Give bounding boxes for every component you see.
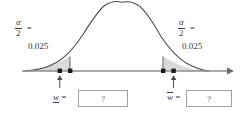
upper-bound-symbol: w xyxy=(167,92,173,102)
right-equals-sign: = xyxy=(190,23,195,33)
lower-bound-pointer-arrowhead xyxy=(57,75,63,80)
upper-bound-answer-text: ? xyxy=(207,94,211,104)
upper-bound-pointer-arrowhead xyxy=(171,75,177,80)
right-tail-shaded-region xyxy=(163,56,209,71)
left-equals-sign: = xyxy=(27,23,32,33)
right-alpha-numerator: α xyxy=(178,18,185,27)
left-tail-shaded-region xyxy=(25,56,70,71)
lower-bound-answer-box[interactable]: ? xyxy=(78,90,128,107)
statistics-figure: α 2 = 0.025 α 2 = 0.025 w = ? w = ? xyxy=(0,0,244,114)
right-tail-area-value: 0.025 xyxy=(182,41,202,51)
upper-boundary-dot xyxy=(161,69,165,73)
left-tail-area-value: 0.025 xyxy=(28,41,48,51)
lower-bound-label: w = xyxy=(53,92,66,103)
upper-bound-label: w = xyxy=(167,92,180,102)
right-alpha-fraction: α 2 xyxy=(178,18,185,39)
upper-bound-answer-box[interactable]: ? xyxy=(186,90,232,107)
left-alpha-fraction: α 2 xyxy=(15,18,22,39)
lower-boundary-dot xyxy=(68,69,72,73)
lower-bound-dot xyxy=(58,69,62,73)
left-alpha-denominator: 2 xyxy=(15,29,22,38)
right-alpha-denominator: 2 xyxy=(178,29,185,38)
x-axis-arrowhead xyxy=(227,68,234,75)
right-tail-alpha-label: α 2 = xyxy=(178,18,195,39)
upper-bound-dot xyxy=(171,69,175,73)
lower-bound-equals: = xyxy=(61,92,66,102)
left-alpha-numerator: α xyxy=(15,18,22,27)
left-tail-alpha-label: α 2 = xyxy=(15,18,32,39)
lower-bound-answer-text: ? xyxy=(101,94,105,104)
lower-bound-symbol: w xyxy=(53,93,59,103)
upper-bound-equals: = xyxy=(175,92,180,102)
